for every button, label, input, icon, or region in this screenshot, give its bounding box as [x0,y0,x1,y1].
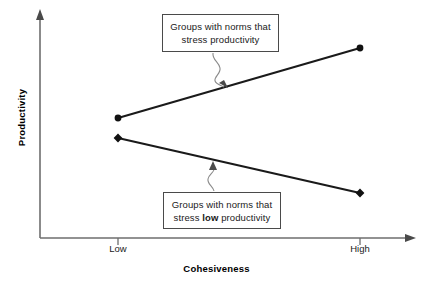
series-point-low-productivity-high [356,189,365,198]
callout-top-line2: stress productivity [163,33,278,46]
series-line-low-productivity [118,138,360,193]
callout-bottom-line1: Groups with norms that [164,198,280,211]
series-point-low-productivity-low [114,134,123,143]
callout-bottom-line2-post: productivity [218,212,270,223]
bottom-callout-arrowhead [209,161,217,170]
x-axis-title: Cohesiveness [0,263,433,274]
x-tick-label-high: High [330,243,390,254]
callout-box-low-productivity: Groups with norms that stress low produc… [163,192,281,229]
callout-bottom-line2-pre: stress [174,212,203,223]
callout-bottom-line2: stress low productivity [164,211,280,224]
series-line-high-productivity [118,48,360,118]
x-axis-arrowhead [405,234,416,242]
x-tick-label-low: Low [88,243,148,254]
series-point-high-productivity-high [357,45,364,52]
chart-figure: Groups with norms that stress productivi… [0,0,433,285]
series-point-high-productivity-low [115,115,122,122]
bottom-callout-arrow [208,168,214,191]
y-axis-arrowhead [36,9,44,20]
y-axis-title: Productivity [16,68,27,168]
top-callout-arrow [213,53,220,81]
callout-box-high-productivity: Groups with norms that stress productivi… [162,14,279,52]
callout-bottom-line2-bold: low [202,212,218,223]
callout-top-line1: Groups with norms that [163,20,278,33]
